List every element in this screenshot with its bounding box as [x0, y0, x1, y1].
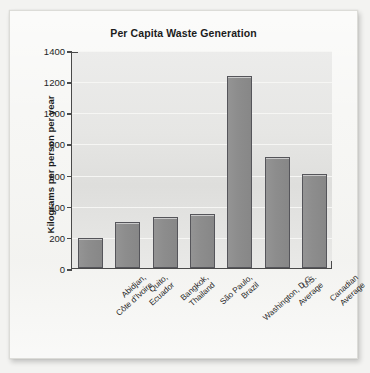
y-axis-tick: [67, 144, 72, 146]
x-axis-tick-label: CanadianAverage: [328, 273, 367, 311]
y-axis-tick: [67, 238, 72, 240]
y-axis-tick-label: 1200: [44, 77, 65, 88]
y-axis-tick: [67, 269, 72, 271]
y-axis-tick: [67, 113, 72, 115]
y-axis-tick-label: 200: [49, 232, 65, 243]
x-axis-tick-label: Bangkok,Thailand: [179, 273, 217, 310]
y-axis-tick-label: 1400: [44, 46, 65, 57]
y-axis-tick: [67, 82, 72, 84]
gridline: [72, 176, 332, 177]
gridline: [72, 113, 332, 114]
plot-area: 0200400600800100012001400: [71, 51, 332, 269]
gridline: [72, 82, 332, 83]
bar: [190, 214, 215, 268]
y-axis-tick-label: 0: [60, 264, 65, 275]
figure-card: Per Capita Waste Generation Kilograms pe…: [9, 10, 358, 359]
bar: [78, 238, 103, 268]
bar: [115, 222, 140, 268]
y-axis-title: Kilograms per person per year: [45, 70, 56, 260]
y-axis-tick: [67, 51, 72, 53]
y-axis-tick: [67, 176, 72, 178]
bar: [153, 217, 178, 268]
gridline: [72, 51, 332, 52]
y-axis-tick-label: 400: [49, 201, 65, 212]
chart-title: Per Capita Waste Generation: [10, 27, 357, 39]
bar: [302, 174, 327, 268]
y-axis-tick-label: 600: [49, 170, 65, 181]
gridline: [72, 207, 332, 208]
gridline: [72, 144, 332, 145]
bar: [265, 157, 290, 268]
y-axis-tick-label: 800: [49, 139, 65, 150]
x-axis-tick-label: U.S.Average: [290, 273, 325, 308]
x-axis-tick-label: São Paulo,Brazil: [218, 273, 261, 314]
bar: [227, 76, 252, 268]
y-axis-tick-label: 1000: [44, 108, 65, 119]
x-axis-right-stub: [331, 261, 333, 268]
y-axis-tick: [67, 207, 72, 209]
